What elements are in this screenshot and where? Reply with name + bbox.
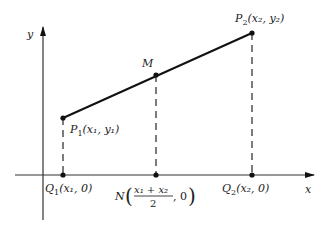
label-p2: P2(x₂, y₂) — [234, 12, 284, 27]
point-q2 — [249, 172, 254, 177]
svg-text:x₁ + x₂: x₁ + x₂ — [134, 184, 168, 195]
svg-text:(: ( — [125, 184, 133, 208]
svg-text:2: 2 — [150, 198, 156, 209]
point-n — [153, 172, 158, 177]
svg-text:Q2(x₂, 0): Q2(x₂, 0) — [222, 182, 269, 197]
y-axis-label: y — [26, 28, 34, 41]
svg-text:P1(x₁, y₁): P1(x₁, y₁) — [69, 123, 119, 138]
x-axis-label: x — [305, 183, 312, 196]
label-p1: P1(x₁, y₁) — [69, 123, 119, 138]
svg-text:): ) — [188, 184, 196, 208]
point-q1 — [60, 172, 65, 177]
svg-text:Q1(x₁, 0): Q1(x₁, 0) — [45, 182, 92, 197]
label-q2: Q2(x₂, 0) — [222, 182, 269, 197]
label-q1: Q1(x₁, 0) — [45, 182, 92, 197]
midpoint-diagram: x y P1(x₁, y₁) M P2(x₂, y₂) Q1(x₁, 0) N … — [0, 0, 330, 226]
point-m — [153, 72, 158, 77]
svg-text:N: N — [114, 190, 125, 203]
label-m: M — [141, 57, 154, 70]
svg-text:P2(x₂, y₂): P2(x₂, y₂) — [234, 12, 284, 27]
point-p2 — [249, 30, 254, 35]
label-n: N ( x₁ + x₂ 2 , 0 ) — [114, 184, 196, 209]
point-p1 — [60, 115, 65, 120]
svg-text:, 0: , 0 — [173, 190, 187, 203]
